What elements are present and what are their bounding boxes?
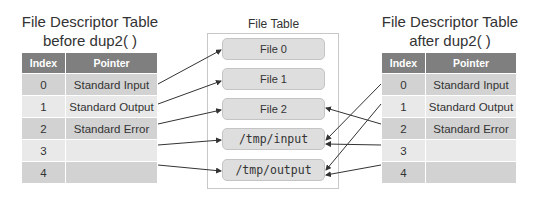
arrow-right-1	[326, 104, 381, 170]
arrow-left-1	[158, 81, 221, 104]
arrow-right-0	[326, 84, 381, 140]
arrow-left-3	[158, 140, 221, 145]
arrow-right-3	[326, 144, 381, 145]
arrow-right-4	[326, 165, 381, 175]
pointer-arrows	[0, 0, 538, 198]
arrow-left-2	[158, 110, 221, 124]
arrow-left-0	[158, 50, 221, 84]
arrow-right-2	[326, 108, 381, 124]
arrow-left-4	[158, 165, 221, 171]
